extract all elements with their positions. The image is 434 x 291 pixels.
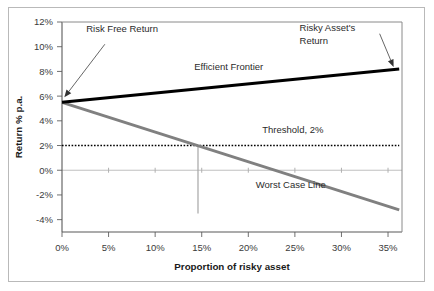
y-tick-label: 8% xyxy=(39,66,53,77)
x-tick-label: 25% xyxy=(285,242,305,253)
y-tick-label: 0% xyxy=(39,165,53,176)
y-tick-label: 2% xyxy=(39,140,53,151)
y-tick-label: 6% xyxy=(39,91,53,102)
x-tick-label: 15% xyxy=(192,242,212,253)
x-axis-tick-labels: 0%5%10%15%20%25%30%35% xyxy=(55,242,398,253)
x-tick-label: 30% xyxy=(332,242,352,253)
x-axis-title: Proportion of risky asset xyxy=(174,261,290,272)
y-tick-label: 10% xyxy=(34,41,54,52)
plot-area-background xyxy=(62,22,402,232)
annotation-threshold: Threshold, 2% xyxy=(262,124,324,135)
x-tick-label: 35% xyxy=(379,242,399,253)
x-tick-label: 20% xyxy=(239,242,259,253)
x-axis-tick-marks xyxy=(62,232,388,237)
annotation-risky-asset-return-line2: Return xyxy=(300,35,329,46)
y-axis-tick-labels: -4%-2%0%2%4%6%8%10%12% xyxy=(34,16,54,225)
chart-canvas: -4%-2%0%2%4%6%8%10%12% 0%5%10%15%20%25%3… xyxy=(0,0,434,291)
annotation-worst-case-line: Worst Case Line xyxy=(256,179,326,190)
annotation-risk-free-return: Risk Free Return xyxy=(86,23,158,34)
chart-figure: -4%-2%0%2%4%6%8%10%12% 0%5%10%15%20%25%3… xyxy=(0,0,434,291)
y-tick-label: -4% xyxy=(36,214,53,225)
x-tick-label: 0% xyxy=(55,242,69,253)
y-axis-tick-marks xyxy=(57,22,62,220)
y-tick-label: 4% xyxy=(39,115,53,126)
y-tick-label: 12% xyxy=(34,16,54,27)
y-axis-title: Return % p.a. xyxy=(13,95,24,158)
x-tick-label: 10% xyxy=(146,242,166,253)
y-tick-label: -2% xyxy=(36,189,53,200)
annotation-efficient-frontier: Efficient Frontier xyxy=(194,61,263,72)
annotation-risky-asset-return-line1: Risky Asset's xyxy=(300,22,356,33)
x-tick-label: 5% xyxy=(102,242,116,253)
